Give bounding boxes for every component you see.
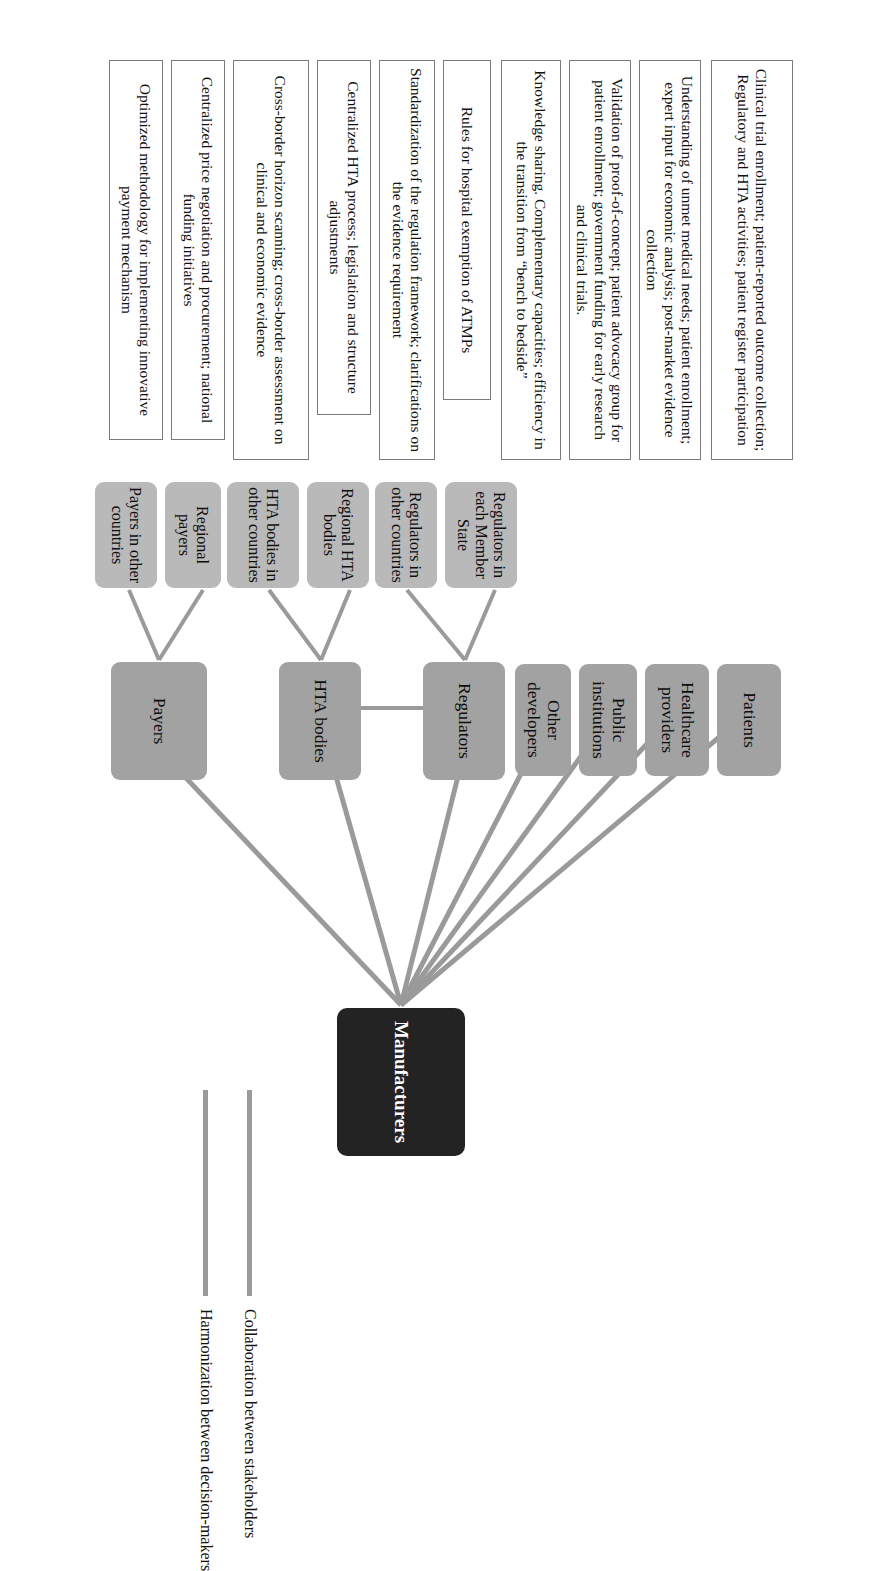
node-healthcare-providers[interactable]: Healthcare providers	[645, 664, 709, 776]
detail-box-other-developers: Knowledge sharing. Complementary capacit…	[501, 60, 561, 460]
link-regulators-other	[407, 590, 465, 660]
detail-box-regional-hta: Centralized HTA process; legislation and…	[317, 60, 371, 415]
link-payers-other	[129, 590, 159, 660]
legend: Collaboration between stakeholders Harmo…	[171, 1090, 259, 1420]
sub-node-regulators-member-state[interactable]: Regulators in each Member State	[445, 482, 517, 588]
detail-box-patients: Clinical trial enrollment; patient-repor…	[711, 60, 793, 460]
detail-box-public: Validation of proof-of-concept; patient …	[569, 60, 631, 460]
link-regulators-memberstate	[465, 590, 495, 660]
node-hta-bodies[interactable]: HTA bodies	[279, 662, 361, 780]
detail-box-regulators-member-state: Rules for hospital exemption of ATMPs	[443, 60, 491, 400]
node-manufacturers[interactable]: Manufacturers	[337, 1008, 465, 1156]
detail-box-hta-other: Cross-border horizon scanning; cross-bor…	[233, 60, 309, 460]
sub-node-hta-other[interactable]: HTA bodies in other countries	[227, 482, 299, 588]
sub-node-regional-hta[interactable]: Regional HTA bodies	[307, 482, 369, 588]
legend-item-collaboration: Collaboration between stakeholders	[241, 1090, 259, 1420]
node-payers[interactable]: Payers	[111, 662, 207, 780]
link-payers-regional	[159, 590, 203, 660]
link-hta-regional	[321, 590, 350, 660]
node-public-institutions[interactable]: Public institutions	[579, 664, 637, 776]
detail-box-payers-other: Optimized methodology for implementing i…	[109, 60, 163, 440]
node-regulators[interactable]: Regulators	[423, 662, 505, 780]
node-other-developers[interactable]: Other developers	[515, 664, 571, 776]
legend-line-collaboration-icon	[248, 1090, 253, 1296]
detail-box-providers: Understanding of unmet medical needs; pa…	[639, 60, 701, 460]
sub-node-payers-other[interactable]: Payers in other countries	[95, 482, 157, 588]
link-hta-other	[269, 590, 321, 660]
legend-item-harmonization: Harmonization between decision-makers	[197, 1090, 215, 1420]
legend-line-harmonization-icon	[204, 1090, 209, 1296]
legend-label-collaboration: Collaboration between stakeholders	[241, 1309, 259, 1538]
node-patients[interactable]: Patients	[717, 664, 781, 776]
legend-label-harmonization: Harmonization between decision-makers	[197, 1309, 215, 1571]
detail-box-regulators-other: Standardization of the regulation framew…	[379, 60, 435, 460]
sub-node-regulators-other[interactable]: Regulators in other countries	[375, 482, 437, 588]
detail-box-regional-payers: Centralized price negotiation and procur…	[171, 60, 225, 440]
sub-node-regional-payers[interactable]: Regional payers	[165, 482, 221, 588]
